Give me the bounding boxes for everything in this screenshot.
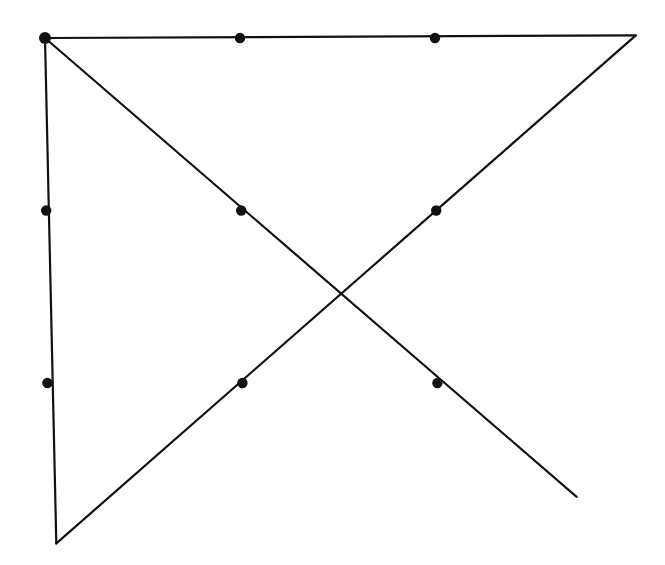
dot-r3-c2 [237, 378, 247, 388]
dot-r3-c3 [432, 378, 442, 388]
top-horizontal-line [45, 35, 636, 38]
left-vertical-line [45, 38, 56, 543]
nine-dot-diagram [0, 0, 665, 565]
dot-r1-c1 [39, 32, 51, 44]
dot-r3-c1 [42, 378, 52, 388]
dot-r1-c2 [235, 33, 245, 43]
descending-diagonal-line [45, 38, 577, 497]
dot-r2-c1 [41, 205, 51, 215]
lines-layer [45, 35, 636, 543]
long-diagonal-line [56, 35, 636, 543]
dot-r2-c3 [431, 205, 441, 215]
dot-r2-c2 [236, 205, 246, 215]
dot-r1-c3 [430, 33, 440, 43]
